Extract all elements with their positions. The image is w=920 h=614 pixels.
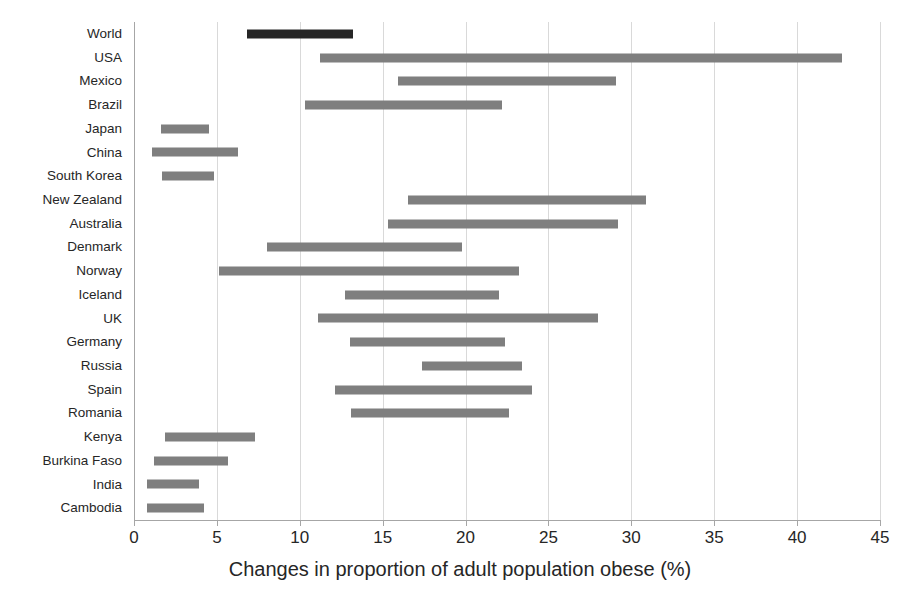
- category-label-romania: Romania: [68, 401, 122, 425]
- bar-row: [134, 259, 880, 283]
- category-label-australia: Australia: [69, 212, 122, 236]
- category-label-japan: Japan: [85, 117, 122, 141]
- bar-row: [134, 235, 880, 259]
- category-axis-labels: WorldUSAMexicoBrazilJapanChinaSouth Kore…: [0, 22, 128, 520]
- bar-denmark[interactable]: [267, 243, 463, 252]
- x-tick-45: [880, 520, 881, 526]
- x-tick-label-30: 30: [622, 528, 641, 548]
- bar-row: [134, 401, 880, 425]
- x-tick-25: [548, 520, 549, 526]
- bar-germany[interactable]: [350, 338, 506, 347]
- category-label-kenya: Kenya: [84, 425, 122, 449]
- x-tick-40: [797, 520, 798, 526]
- x-tick-0: [134, 520, 135, 526]
- bar-norway[interactable]: [219, 266, 519, 275]
- category-label-spain: Spain: [87, 378, 122, 402]
- bar-row: [134, 354, 880, 378]
- category-label-germany: Germany: [66, 330, 122, 354]
- category-label-uk: UK: [103, 307, 122, 331]
- x-tick-label-20: 20: [456, 528, 475, 548]
- bar-row: [134, 212, 880, 236]
- category-label-mexico: Mexico: [79, 69, 122, 93]
- x-tick-15: [383, 520, 384, 526]
- bar-row: [134, 449, 880, 473]
- bar-world[interactable]: [247, 29, 353, 38]
- bar-uk[interactable]: [318, 314, 598, 323]
- category-label-usa: USA: [94, 46, 122, 70]
- x-axis-title: Changes in proportion of adult populatio…: [0, 558, 920, 581]
- bar-russia[interactable]: [422, 361, 521, 370]
- x-tick-label-10: 10: [290, 528, 309, 548]
- bar-row: [134, 93, 880, 117]
- bar-row: [134, 283, 880, 307]
- bar-iceland[interactable]: [345, 290, 499, 299]
- bar-cambodia[interactable]: [147, 504, 203, 513]
- category-label-south-korea: South Korea: [47, 164, 122, 188]
- category-label-cambodia: Cambodia: [60, 496, 122, 520]
- bar-row: [134, 330, 880, 354]
- bar-row: [134, 141, 880, 165]
- bar-row: [134, 473, 880, 497]
- bar-row: [134, 307, 880, 331]
- category-label-brazil: Brazil: [88, 93, 122, 117]
- x-tick-label-5: 5: [212, 528, 221, 548]
- x-tick-label-0: 0: [129, 528, 138, 548]
- x-tick-label-45: 45: [871, 528, 890, 548]
- bar-spain[interactable]: [335, 385, 532, 394]
- bar-mexico[interactable]: [398, 77, 617, 86]
- category-label-denmark: Denmark: [67, 235, 122, 259]
- bar-kenya[interactable]: [165, 432, 255, 441]
- category-label-new-zealand: New Zealand: [42, 188, 122, 212]
- category-label-world: World: [87, 22, 122, 46]
- category-label-india: India: [93, 473, 122, 497]
- bar-row: [134, 188, 880, 212]
- category-label-norway: Norway: [76, 259, 122, 283]
- category-label-china: China: [87, 141, 122, 165]
- bar-india[interactable]: [147, 480, 198, 489]
- x-tick-label-40: 40: [788, 528, 807, 548]
- gridline-45: [880, 22, 881, 520]
- x-tick-label-35: 35: [705, 528, 724, 548]
- plot-area: [134, 22, 880, 520]
- x-tick-label-15: 15: [373, 528, 392, 548]
- bar-row: [134, 69, 880, 93]
- bar-brazil[interactable]: [305, 100, 502, 109]
- bar-row: [134, 496, 880, 520]
- bar-row: [134, 164, 880, 188]
- bar-south-korea[interactable]: [162, 172, 213, 181]
- x-tick-label-25: 25: [539, 528, 558, 548]
- x-tick-35: [714, 520, 715, 526]
- bar-usa[interactable]: [320, 53, 842, 62]
- x-tick-20: [466, 520, 467, 526]
- category-label-russia: Russia: [81, 354, 122, 378]
- bar-china[interactable]: [152, 148, 238, 157]
- obesity-range-chart: WorldUSAMexicoBrazilJapanChinaSouth Kore…: [0, 0, 920, 614]
- bar-australia[interactable]: [388, 219, 618, 228]
- bar-new-zealand[interactable]: [408, 195, 647, 204]
- x-tick-30: [631, 520, 632, 526]
- x-axis-line: [134, 520, 880, 521]
- bar-row: [134, 117, 880, 141]
- bar-romania[interactable]: [351, 409, 508, 418]
- bar-japan[interactable]: [161, 124, 209, 133]
- x-tick-10: [300, 520, 301, 526]
- category-label-burkina-faso: Burkina Faso: [42, 449, 122, 473]
- bar-row: [134, 378, 880, 402]
- bar-row: [134, 46, 880, 70]
- bar-row: [134, 425, 880, 449]
- category-label-iceland: Iceland: [78, 283, 122, 307]
- bar-row: [134, 22, 880, 46]
- bar-burkina-faso[interactable]: [154, 456, 229, 465]
- x-tick-5: [217, 520, 218, 526]
